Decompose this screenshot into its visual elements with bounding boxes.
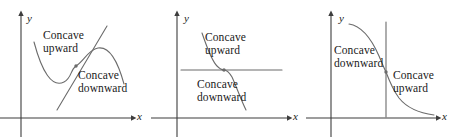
x-axis-label: x xyxy=(137,110,142,122)
label-concave-upward: Concave upward xyxy=(393,69,434,94)
label-line-1: Concave xyxy=(78,69,127,82)
panel-2-graph xyxy=(151,0,306,137)
x-axis-label: x xyxy=(293,110,298,122)
label-line-2: downward xyxy=(334,57,383,70)
y-axis-label: y xyxy=(27,12,32,24)
label-line-1: Concave xyxy=(43,29,84,42)
panel-curve-vertical-tangent: y x Concave downward Concave upward xyxy=(306,0,453,137)
label-concave-downward: Concave downward xyxy=(197,78,246,103)
label-line-1: Concave xyxy=(334,44,383,57)
panel-cubic-slanted-tangent: y x Concave upward Concave downward xyxy=(0,0,151,137)
label-line-1: Concave xyxy=(393,69,434,82)
concavity-figure: y x Concave upward Concave downward xyxy=(0,0,453,137)
inflection-point-dot xyxy=(222,68,225,71)
label-concave-upward: Concave upward xyxy=(43,29,84,54)
y-axis-label: y xyxy=(339,12,344,24)
label-line-2: upward xyxy=(43,42,84,55)
panel-1-graph xyxy=(0,0,151,137)
label-concave-downward: Concave downward xyxy=(334,44,383,69)
panel-cubic-horizontal-tangent: y x Concave upward Concave downward xyxy=(151,0,306,137)
inflection-point-dot xyxy=(74,64,77,67)
label-line-1: Concave xyxy=(205,31,246,44)
label-line-1: Concave xyxy=(197,78,246,91)
inflection-point-dot xyxy=(384,70,387,73)
label-line-2: downward xyxy=(197,91,246,104)
y-axis-label: y xyxy=(184,12,189,24)
label-line-2: upward xyxy=(393,82,434,95)
label-concave-upward: Concave upward xyxy=(205,31,246,56)
label-line-2: upward xyxy=(205,44,246,57)
x-axis-label: x xyxy=(442,110,447,122)
label-concave-downward: Concave downward xyxy=(78,69,127,94)
label-line-2: downward xyxy=(78,82,127,95)
